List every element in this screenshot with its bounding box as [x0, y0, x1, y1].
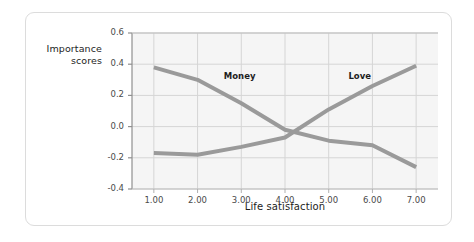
y-tick-label: -0.4 [94, 183, 124, 193]
y-tick-label: 0.2 [94, 89, 124, 99]
y-tick-label: 0.6 [94, 27, 124, 37]
y-tick-label: 0.4 [94, 58, 124, 68]
x-axis-label: Life satisfaction [132, 201, 438, 212]
y-tick-label: 0.0 [94, 121, 124, 131]
series-annotation-money: Money [224, 71, 256, 81]
line-chart: Importance scores 0.60.40.20.0-0.2-0.4 1… [26, 13, 453, 227]
series-annotation-love: Love [348, 71, 371, 81]
y-tick-label: -0.2 [94, 152, 124, 162]
figure-card: Importance scores 0.60.40.20.0-0.2-0.4 1… [25, 12, 452, 226]
